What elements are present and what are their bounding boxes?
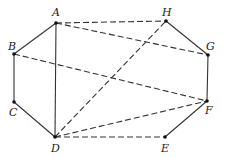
vertex-D bbox=[53, 135, 57, 139]
edges bbox=[14, 21, 208, 137]
solid-edge-EF bbox=[165, 101, 207, 137]
vertex-A bbox=[54, 21, 58, 25]
dashed-edge-BF bbox=[14, 54, 207, 101]
vertex-label-E: E bbox=[160, 142, 169, 155]
vertex-label-B: B bbox=[7, 40, 16, 53]
dashed-edge-AG bbox=[56, 23, 208, 55]
vertex-label-A: A bbox=[51, 6, 60, 19]
vertex-F bbox=[205, 99, 209, 103]
vertex-C bbox=[12, 100, 16, 104]
solid-edge-CD bbox=[14, 102, 55, 137]
vertex-E bbox=[163, 135, 167, 139]
vertex-label-G: G bbox=[206, 40, 215, 53]
solid-edge-GH bbox=[166, 21, 208, 55]
vertex-label-F: F bbox=[204, 104, 213, 117]
solid-edge-AD bbox=[55, 23, 56, 137]
dashed-edge-DH bbox=[55, 21, 166, 137]
vertex-label-H: H bbox=[161, 6, 172, 19]
vertex-label-C: C bbox=[9, 106, 18, 119]
vertex-G bbox=[206, 53, 210, 57]
solid-edge-AB bbox=[14, 23, 56, 54]
solid-edge-FG bbox=[207, 55, 208, 101]
vertices: ABCDEFGH bbox=[7, 6, 215, 155]
dashed-edge-AH bbox=[56, 21, 166, 23]
vertex-H bbox=[164, 19, 168, 23]
octagon-diagram: ABCDEFGH bbox=[0, 0, 225, 157]
dashed-edge-DF bbox=[55, 101, 207, 137]
vertex-label-D: D bbox=[50, 142, 60, 155]
